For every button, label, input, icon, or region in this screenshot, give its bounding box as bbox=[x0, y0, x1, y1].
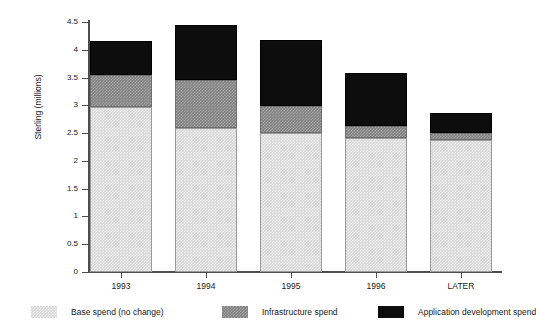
bar-segment-infrastructure-spend bbox=[90, 75, 152, 107]
x-axis-tick-label: 1993 bbox=[81, 281, 161, 291]
legend-label-base-spend: Base spend (no change) bbox=[71, 306, 164, 318]
y-axis-tick bbox=[82, 161, 88, 162]
plot-area bbox=[90, 22, 502, 272]
legend-item-infrastructure-spend: Infrastructure spend bbox=[222, 302, 338, 322]
bar-segment-infrastructure-spend bbox=[345, 126, 407, 138]
y-axis-tick-label: 3 bbox=[38, 101, 78, 109]
y-axis-tick bbox=[82, 216, 88, 217]
y-axis-tick-label: 2.5 bbox=[38, 129, 78, 137]
x-axis-tick bbox=[291, 273, 292, 278]
y-axis-tick-label: 2 bbox=[38, 157, 78, 165]
y-axis-tick bbox=[82, 78, 88, 79]
y-axis-tick-label: 4 bbox=[38, 46, 78, 54]
legend-swatch-application-development-spend bbox=[378, 306, 404, 318]
y-axis-tick-label: 4.5 bbox=[38, 18, 78, 26]
bar-segment-base-spend bbox=[430, 140, 492, 272]
bar-later bbox=[430, 22, 492, 272]
y-axis-tick-label: 1.5 bbox=[38, 185, 78, 193]
x-axis-tick-label: 1995 bbox=[251, 281, 331, 291]
y-axis-tick bbox=[82, 22, 88, 23]
legend-swatch-base-spend bbox=[31, 306, 57, 318]
bar-segment-base-spend bbox=[175, 128, 237, 272]
y-axis-tick-label: 1 bbox=[38, 212, 78, 220]
bar-1993 bbox=[90, 22, 152, 272]
bar-segment-infrastructure-spend bbox=[430, 133, 492, 140]
bar-segment-infrastructure-spend bbox=[260, 106, 322, 133]
legend-item-base-spend: Base spend (no change) bbox=[31, 302, 164, 322]
x-axis-tick-label: 1996 bbox=[336, 281, 416, 291]
bar-segment-application-development-spend bbox=[260, 40, 322, 106]
x-axis-tick-label: 1994 bbox=[166, 281, 246, 291]
x-axis-tick bbox=[376, 273, 377, 278]
bar-segment-base-spend bbox=[90, 107, 152, 272]
y-axis-tick bbox=[82, 105, 88, 106]
bar-segment-application-development-spend bbox=[345, 73, 407, 126]
y-axis-tick-label: 0.5 bbox=[38, 240, 78, 248]
y-axis-tick bbox=[82, 244, 88, 245]
x-axis-tick bbox=[121, 273, 122, 278]
x-axis-tick bbox=[461, 273, 462, 278]
legend-item-application-development-spend: Application development spend bbox=[378, 302, 536, 322]
x-axis-tick bbox=[206, 273, 207, 278]
y-axis-tick-label: 3.5 bbox=[38, 74, 78, 82]
legend-label-application-development-spend: Application development spend bbox=[418, 306, 536, 318]
bar-segment-application-development-spend bbox=[175, 25, 237, 80]
x-axis-tick-label: LATER bbox=[421, 281, 501, 291]
bar-segment-base-spend bbox=[260, 133, 322, 272]
bar-segment-base-spend bbox=[345, 138, 407, 272]
y-axis-tick bbox=[82, 133, 88, 134]
legend-label-infrastructure-spend: Infrastructure spend bbox=[262, 306, 338, 318]
bar-segment-application-development-spend bbox=[90, 41, 152, 75]
bar-1996 bbox=[345, 22, 407, 272]
y-axis-tick bbox=[82, 50, 88, 51]
chart-legend: Base spend (no change) Infrastructure sp… bbox=[0, 302, 520, 329]
bar-segment-application-development-spend bbox=[430, 113, 492, 133]
y-axis-tick bbox=[82, 189, 88, 190]
legend-swatch-infrastructure-spend bbox=[222, 306, 248, 318]
y-axis-tick bbox=[82, 272, 88, 273]
bar-1994 bbox=[175, 22, 237, 272]
bar-segment-infrastructure-spend bbox=[175, 80, 237, 128]
bar-1995 bbox=[260, 22, 322, 272]
y-axis-tick-label: 0 bbox=[38, 268, 78, 276]
